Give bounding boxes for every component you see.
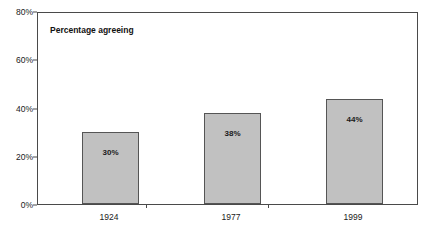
bar-1999: 44% bbox=[326, 99, 383, 204]
y-tick-label: 40% bbox=[0, 104, 33, 113]
y-tick-label: 20% bbox=[0, 153, 33, 162]
bar-chart-figure: 80% 60% 40% 20% 0% Percentage agreeing 3… bbox=[0, 0, 429, 238]
bar-value-label: 30% bbox=[83, 149, 138, 157]
x-tick-label: 1999 bbox=[344, 212, 363, 222]
bar-1977: 38% bbox=[204, 113, 261, 204]
y-axis: 80% 60% 40% 20% 0% bbox=[0, 12, 33, 205]
x-tick-label: 1977 bbox=[222, 212, 241, 222]
bar-value-label: 38% bbox=[205, 130, 260, 138]
x-tick-label: 1924 bbox=[100, 212, 119, 222]
y-tick-label: 0% bbox=[0, 201, 33, 210]
y-tick-label: 80% bbox=[0, 8, 33, 17]
x-tick-mark bbox=[268, 204, 269, 208]
x-axis: 1924 1977 1999 bbox=[37, 209, 418, 229]
plot-caption: Percentage agreeing bbox=[50, 25, 134, 35]
plot-area: Percentage agreeing 30% 38% 44% bbox=[37, 12, 418, 205]
y-tick-label: 60% bbox=[0, 56, 33, 65]
bar-value-label: 44% bbox=[327, 116, 382, 124]
x-tick-mark bbox=[146, 204, 147, 208]
bar-1924: 30% bbox=[82, 132, 139, 204]
